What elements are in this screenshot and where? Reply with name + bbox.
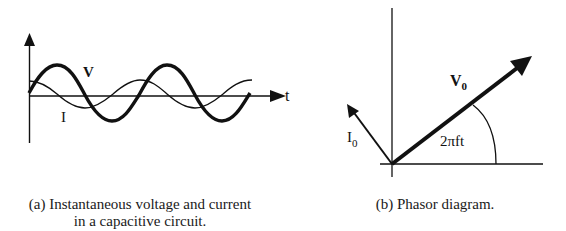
caption-b: (b) Phasor diagram. [345,196,525,213]
t-axis-label: t [285,87,290,104]
panel-b-phasor: V0 I0 2πft [347,8,543,177]
y-axis-arrow-icon [24,33,35,46]
current-label: I [61,109,66,125]
t-axis-arrow-icon [270,90,286,102]
caption-a-line2: in a capacitive circuit. [20,213,260,230]
current-phasor-label: I0 [347,129,358,149]
angle-arc [473,105,496,164]
panel-a-waveforms: t V I [24,33,290,143]
current-phasor [352,110,392,164]
angle-label: 2πft [440,133,465,149]
caption-a: (a) Instantaneous voltage and current in… [20,196,260,230]
voltage-label: V [83,64,94,80]
voltage-phasor-label: V0 [450,72,468,92]
caption-a-line1: (a) Instantaneous voltage and current [20,196,260,213]
